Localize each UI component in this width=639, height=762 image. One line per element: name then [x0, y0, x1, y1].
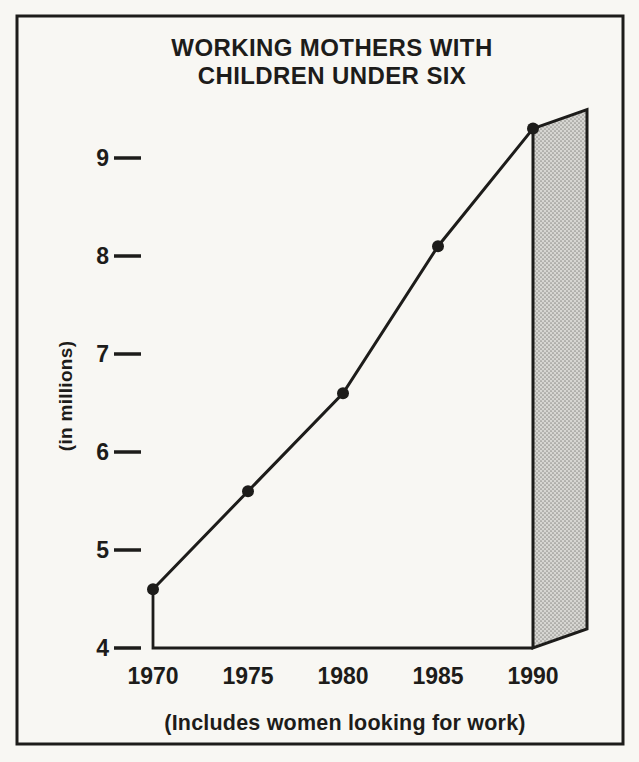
x-tick-label-1985: 1985: [412, 663, 463, 689]
data-point-1970: [147, 583, 159, 595]
baseline-outline: [153, 589, 533, 648]
y-axis-unit-label: (in millions): [55, 341, 76, 452]
scanned-chart-page: WORKING MOTHERS WITH CHILDREN UNDER SIX …: [0, 0, 639, 762]
y-tick-label-7: 7: [96, 341, 109, 367]
y-tick-label-9: 9: [96, 145, 109, 171]
data-point-1975: [242, 485, 254, 497]
y-tick-label-5: 5: [96, 537, 109, 563]
x-tick-label-1970: 1970: [127, 663, 178, 689]
x-tick-label-1975: 1975: [222, 663, 273, 689]
data-line: [153, 129, 533, 590]
chart-layer: 98765419701975198019851990: [96, 110, 587, 689]
data-point-1985: [432, 240, 444, 252]
y-tick-label-4: 4: [96, 635, 109, 661]
chart-figure: WORKING MOTHERS WITH CHILDREN UNDER SIX …: [0, 0, 639, 762]
x-axis-footnote: (Includes women looking for work): [164, 711, 525, 735]
data-point-1990: [527, 123, 539, 135]
depth-panel-3d: [533, 110, 587, 648]
data-point-1980: [337, 387, 349, 399]
x-tick-label-1980: 1980: [317, 663, 368, 689]
figure-title-line2: CHILDREN UNDER SIX: [198, 62, 467, 89]
y-tick-label-6: 6: [96, 439, 109, 465]
y-tick-label-8: 8: [96, 243, 109, 269]
figure-title-line1: WORKING MOTHERS WITH: [171, 34, 492, 61]
x-tick-label-1990: 1990: [507, 663, 558, 689]
